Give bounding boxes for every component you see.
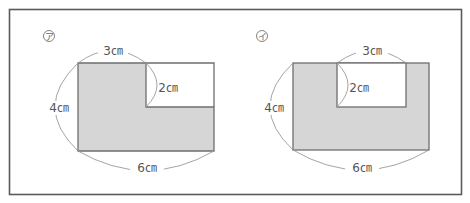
label-left-4cm: 4㎝: [49, 101, 69, 115]
figure-a-marker: ア: [44, 31, 55, 42]
diagram-canvas: ア 3㎝ 2㎝ 4㎝ 6㎝ イ 3㎝ 2㎝: [0, 0, 470, 203]
label-top-3cm: 3㎝: [362, 44, 382, 58]
label-bottom-6cm: 6㎝: [352, 161, 372, 175]
removed-rectangle: [337, 63, 406, 107]
label-top-3cm: 3㎝: [103, 44, 123, 58]
figure-a-marker-text: ア: [45, 32, 54, 42]
label-left-4cm: 4㎝: [264, 101, 284, 115]
label-bottom-6cm: 6㎝: [137, 161, 157, 175]
figure-i-marker-text: イ: [258, 32, 267, 42]
label-notch-2cm: 2㎝: [349, 81, 369, 95]
figure-i-marker: イ: [257, 31, 268, 42]
label-notch-2cm: 2㎝: [158, 81, 178, 95]
